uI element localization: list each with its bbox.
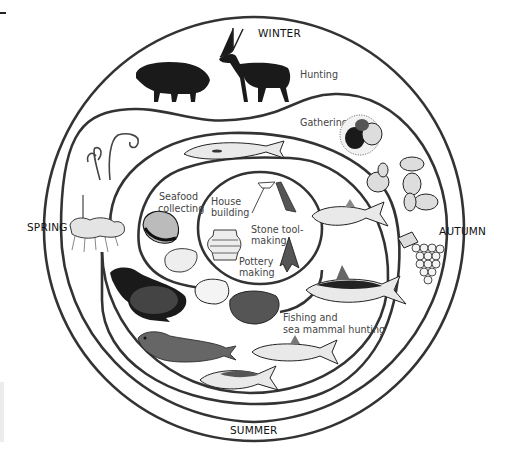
sardine-icon <box>252 335 338 364</box>
walnut-icon <box>367 163 389 192</box>
label-house-2: building <box>211 207 249 218</box>
mackerel-icon <box>200 366 278 390</box>
season-summer: SUMMER <box>230 424 278 436</box>
root-tubers-icon <box>70 195 125 252</box>
chestnuts-icon <box>340 115 382 155</box>
label-pottery-1: Pottery <box>239 256 274 267</box>
label-seafood-1: Seafood <box>159 191 198 202</box>
season-winter: WINTER <box>258 27 301 39</box>
season-autumn: AUTUMN <box>439 225 486 237</box>
deer-icon <box>219 28 290 102</box>
house-frame-icon <box>252 182 296 213</box>
label-house-1: House <box>211 196 241 207</box>
seasonal-cycle-diagram: WINTER AUTUMN SUMMER SPRING Hunting Gath… <box>0 0 511 462</box>
grapes-icon <box>398 232 444 284</box>
label-hunting: Hunting <box>300 69 338 80</box>
abalone-icon <box>195 279 279 324</box>
wild-boar-icon <box>136 62 210 102</box>
season-spring: SPRING <box>27 221 68 233</box>
label-pottery-2: making <box>239 267 275 278</box>
salmon-right-icon <box>312 199 388 226</box>
jomon-pot-icon <box>208 230 241 260</box>
sea-lion-icon <box>110 268 186 322</box>
clam-shells-icon <box>143 211 197 272</box>
label-gathering: Gathering <box>300 117 348 128</box>
label-stone-1: Stone tool- <box>251 224 303 235</box>
label-fishing-1: Fishing and <box>283 312 338 323</box>
label-stone-2: making <box>251 235 287 246</box>
label-fishing-2: sea mammal hunting <box>283 324 385 335</box>
